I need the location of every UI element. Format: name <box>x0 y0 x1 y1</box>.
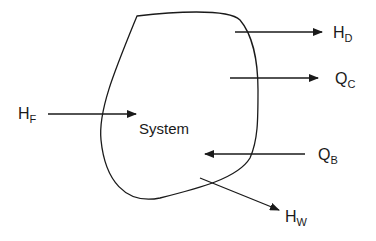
label-qb-main: Q <box>318 146 330 163</box>
label-hw: HW <box>285 209 307 228</box>
label-hd-main: H <box>333 24 345 41</box>
label-hd-sub: D <box>345 32 353 44</box>
label-hw-sub: W <box>297 216 307 228</box>
system-boundary <box>101 12 258 199</box>
label-qc-sub: C <box>347 78 355 90</box>
label-qc-main: Q <box>335 70 347 87</box>
label-qb-sub: B <box>330 154 337 166</box>
label-hw-main: H <box>285 208 297 225</box>
label-hf-main: H <box>18 105 30 122</box>
arrow-hw <box>200 178 279 210</box>
label-qc: QC <box>335 71 355 90</box>
label-hf-sub: F <box>30 113 37 125</box>
energy-balance-diagram: System HF HD QC QB HW <box>0 0 376 241</box>
label-hd: HD <box>333 25 353 44</box>
system-label: System <box>139 121 189 136</box>
label-qb: QB <box>318 147 338 166</box>
label-hf: HF <box>18 106 36 125</box>
